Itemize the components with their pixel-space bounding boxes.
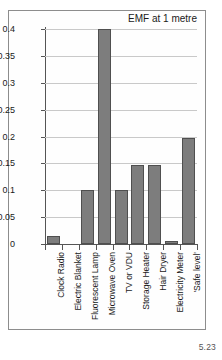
bar	[115, 190, 128, 244]
y-axis-tick-label: 0.1	[2, 186, 15, 195]
x-axis-tick	[197, 244, 198, 250]
x-axis-tick-label: Electric Blanket	[74, 252, 83, 311]
chart-title: EMF at 1 metre	[128, 13, 197, 24]
x-axis-labels: Clock RadioElectric BlanketFluorescent L…	[45, 252, 198, 332]
y-axis-tick-label: 0	[10, 240, 15, 249]
x-axis-tick	[180, 244, 181, 250]
y-axis-tick-label: 0.4	[2, 25, 15, 34]
gridline	[45, 137, 197, 138]
x-axis-tick	[129, 244, 130, 250]
gridline	[45, 56, 197, 57]
x-axis-tick	[113, 244, 114, 250]
bar	[47, 236, 60, 244]
gridline	[45, 83, 197, 84]
gridline	[45, 29, 197, 30]
x-axis-tick	[62, 244, 63, 250]
x-axis-tick-label: 'Safe level'	[193, 252, 202, 293]
bar	[81, 190, 94, 244]
y-axis-tick-label: 0.05	[0, 213, 15, 222]
bar	[148, 165, 161, 244]
figure-number: 5.23	[199, 342, 216, 352]
bar	[98, 29, 111, 244]
x-axis-tick-label: Fluorescent Lamp	[91, 252, 100, 320]
x-axis-tick	[79, 244, 80, 250]
x-axis-tick	[146, 244, 147, 250]
x-axis-tick-label: Hair Dryer	[159, 252, 168, 291]
y-axis-tick-label: 0.2	[2, 133, 15, 142]
bar	[182, 138, 195, 244]
y-axis-tick-label: 0.35	[0, 52, 15, 61]
x-axis-tick	[96, 244, 97, 250]
x-axis-tick-label: Electricity Meter	[176, 252, 185, 312]
x-axis-tick-label: TV or VDU	[125, 252, 134, 293]
gridline	[45, 163, 197, 164]
x-axis-tick-label: Microwave Oven	[108, 252, 117, 315]
y-axis-tick-label: 0.3	[2, 79, 15, 88]
x-axis-tick	[163, 244, 164, 250]
x-axis-tick-label: Clock Radio	[57, 252, 66, 298]
y-axis-tick-label: 0.15	[0, 159, 15, 168]
x-axis-tick-label: Storage Heater	[142, 252, 151, 310]
y-axis-tick-label: 0.25	[0, 106, 15, 115]
x-axis-ticks	[45, 244, 198, 250]
x-axis-tick	[45, 244, 46, 250]
figure-frame: EMF at 1 metre 00.050.10.150.20.250.30.3…	[8, 10, 206, 330]
gridline	[45, 110, 197, 111]
plot-area	[45, 29, 197, 244]
bar	[131, 165, 144, 244]
